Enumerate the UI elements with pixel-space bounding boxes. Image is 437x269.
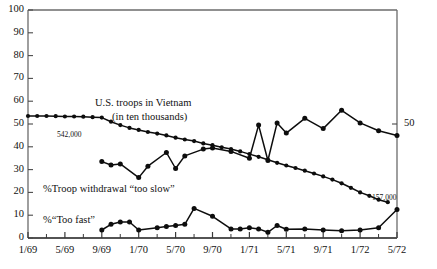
data-point-s2-7 <box>173 223 178 228</box>
data-point-s1-10 <box>229 149 234 154</box>
data-point-s2-8 <box>182 222 187 227</box>
data-point-s2-15 <box>265 230 270 235</box>
data-point-s0-10 <box>118 123 122 127</box>
data-point-s0-36 <box>358 190 362 194</box>
data-point-s2-4 <box>136 228 141 233</box>
data-point-s2-14 <box>256 226 261 231</box>
data-point-s2-3 <box>127 220 132 225</box>
y-axis-label-50: 50 <box>0 117 24 128</box>
data-point-s2-1 <box>109 222 114 227</box>
data-point-s0-14 <box>155 132 159 136</box>
data-point-s0-6 <box>81 115 85 119</box>
chart-container: 0102030405060708090100501/695/699/691/70… <box>0 0 437 269</box>
data-point-s0-5 <box>72 114 76 118</box>
troops-start-value: 542,000 <box>57 130 81 139</box>
data-point-s1-20 <box>376 128 381 133</box>
data-point-s1-6 <box>173 166 178 171</box>
x-axis-label-10: 5/72 <box>372 244 422 255</box>
data-point-s0-33 <box>330 178 334 182</box>
data-point-s2-18 <box>302 226 307 231</box>
data-point-s1-12 <box>256 123 261 128</box>
data-point-s1-0 <box>99 159 104 164</box>
data-point-s0-0 <box>26 114 30 118</box>
data-point-s0-28 <box>284 163 288 167</box>
y-axis-label-60: 60 <box>0 94 24 105</box>
data-point-s0-3 <box>54 114 58 118</box>
data-point-s1-3 <box>136 175 141 180</box>
data-point-s2-0 <box>99 228 104 233</box>
data-point-s2-17 <box>284 227 289 232</box>
data-point-s0-8 <box>100 116 104 120</box>
data-point-s2-2 <box>118 220 123 225</box>
data-point-s1-2 <box>118 161 123 166</box>
data-point-s1-14 <box>275 120 280 125</box>
data-point-s1-15 <box>284 131 289 136</box>
data-point-s0-35 <box>349 186 353 190</box>
data-point-s1-8 <box>201 147 206 152</box>
data-point-s1-4 <box>145 164 150 169</box>
data-point-s2-9 <box>192 206 197 211</box>
data-point-s1-16 <box>302 116 307 121</box>
right-axis-label-50: 50 <box>404 117 415 128</box>
data-point-s0-32 <box>321 174 325 178</box>
data-point-s0-4 <box>63 114 67 118</box>
y-axis-label-20: 20 <box>0 185 24 196</box>
y-axis-label-10: 10 <box>0 208 24 219</box>
data-point-s1-18 <box>339 108 344 113</box>
data-point-s0-12 <box>137 128 141 132</box>
data-point-s2-13 <box>247 225 252 230</box>
data-point-s0-13 <box>146 130 150 134</box>
data-point-s2-11 <box>229 226 234 231</box>
data-point-s0-1 <box>35 114 39 118</box>
data-point-s0-27 <box>275 161 279 165</box>
too-fast-label: %“Too fast” <box>43 214 95 225</box>
troops-label: U.S. troops in Vietnam <box>95 97 191 108</box>
data-point-s1-13 <box>265 158 270 163</box>
troops-label-sub: (in ten thousands) <box>112 111 187 122</box>
data-point-s1-9 <box>210 145 215 150</box>
y-axis-label-0: 0 <box>0 231 24 242</box>
y-axis-label-90: 90 <box>0 26 24 37</box>
y-axis-label-40: 40 <box>0 140 24 151</box>
data-point-s0-34 <box>340 181 344 185</box>
y-axis-label-30: 30 <box>0 163 24 174</box>
data-point-s1-11 <box>247 156 252 161</box>
y-axis-label-80: 80 <box>0 49 24 60</box>
data-point-s1-7 <box>182 153 187 158</box>
data-point-s0-19 <box>201 141 205 145</box>
data-point-s1-21 <box>395 133 400 138</box>
y-axis-label-100: 100 <box>0 3 24 14</box>
too-slow-label: %Troop withdrawal “too slow” <box>43 183 175 194</box>
data-point-s2-6 <box>164 224 169 229</box>
data-point-s1-17 <box>321 126 326 131</box>
data-point-s0-16 <box>174 136 178 140</box>
data-point-s2-12 <box>238 226 243 231</box>
data-point-s0-29 <box>293 166 297 170</box>
data-point-s0-17 <box>183 137 187 141</box>
data-point-s2-21 <box>358 228 363 233</box>
data-point-s1-1 <box>109 163 114 168</box>
data-point-s0-37 <box>367 194 371 198</box>
data-point-s0-30 <box>303 169 307 173</box>
data-point-s2-22 <box>376 225 381 230</box>
data-point-s2-19 <box>321 228 326 233</box>
data-point-s0-2 <box>44 114 48 118</box>
data-point-s2-5 <box>155 225 160 230</box>
data-point-s0-7 <box>91 115 95 119</box>
data-point-s2-10 <box>210 214 215 219</box>
data-point-s0-15 <box>164 133 168 137</box>
data-point-s0-31 <box>312 171 316 175</box>
data-point-s0-23 <box>238 149 242 153</box>
data-point-s2-23 <box>395 207 400 212</box>
y-axis-label-70: 70 <box>0 71 24 82</box>
data-point-s2-16 <box>275 223 280 228</box>
data-point-s2-20 <box>339 228 344 233</box>
data-point-s0-11 <box>127 126 131 130</box>
data-point-s0-25 <box>257 155 261 159</box>
troops-end-value: 157,000 <box>372 193 396 202</box>
data-point-s0-18 <box>192 139 196 143</box>
data-point-s1-19 <box>358 120 363 125</box>
data-point-s1-5 <box>164 150 169 155</box>
